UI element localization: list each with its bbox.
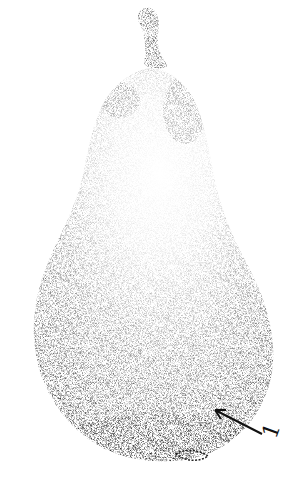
pear-body [0, 0, 308, 486]
pear-drawing [0, 0, 308, 486]
pear-stem [138, 8, 168, 69]
